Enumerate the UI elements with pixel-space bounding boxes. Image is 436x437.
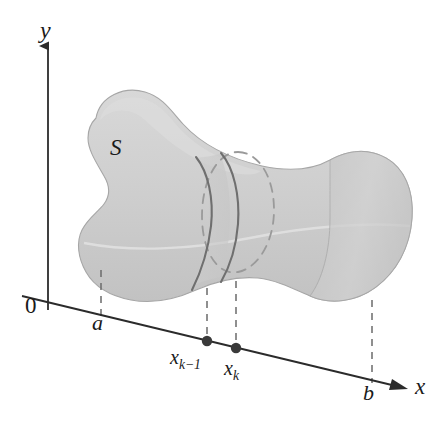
upper-limit-label-b: b: [363, 382, 374, 404]
x-k-point: [231, 343, 241, 353]
figure-canvas: [0, 0, 436, 437]
x-k-label: xk: [224, 358, 239, 383]
x-axis-arrowhead: [389, 379, 408, 390]
x-k-minus-1-base: x: [170, 346, 179, 368]
origin-label: 0: [25, 294, 37, 317]
volumes-cross-section-figure: y x 0 a b S xk−1 xk: [0, 0, 436, 437]
y-axis-label: y: [40, 18, 51, 42]
x-k-subscript: k: [233, 368, 239, 383]
x-k-minus-1-subscript: k−1: [179, 357, 201, 372]
x-axis-label: x: [415, 375, 425, 398]
x-k-minus-1-label: xk−1: [170, 347, 201, 372]
lower-limit-label-a: a: [92, 312, 103, 334]
x-k-base: x: [224, 357, 233, 379]
x-k-minus-1-point: [202, 336, 212, 346]
solid-label-s: S: [110, 136, 122, 159]
